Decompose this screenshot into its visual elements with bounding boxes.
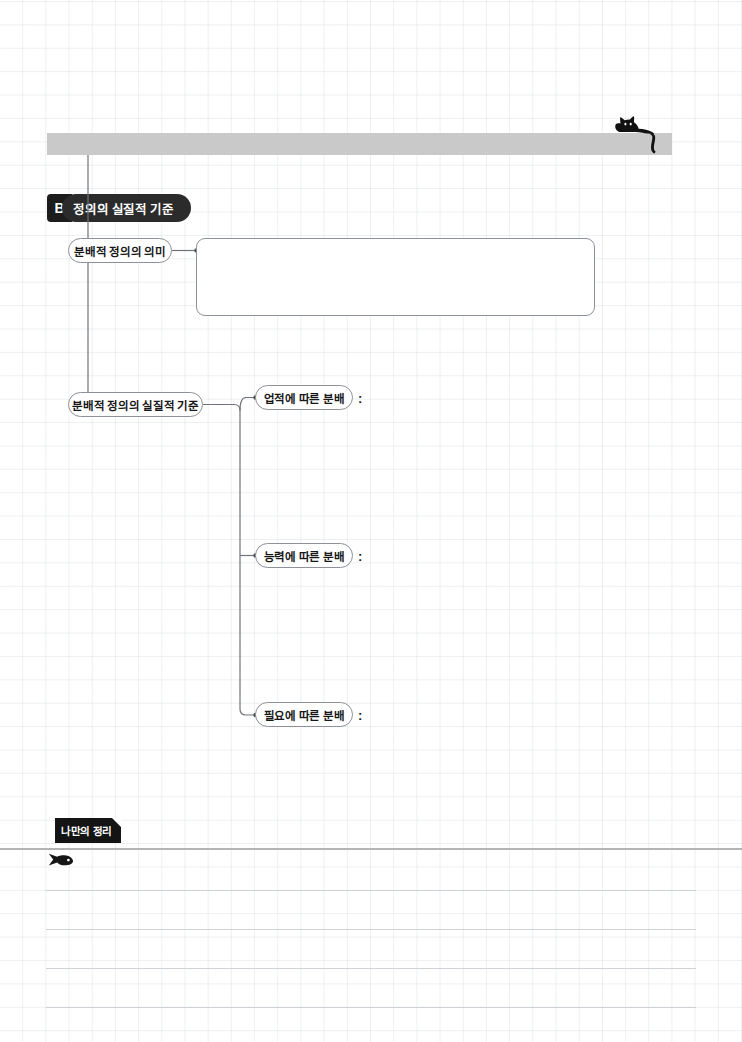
node-ability[interactable]: 능력에 따른 분배 [255,543,353,568]
memo-tag: 나만의 정리 [55,818,121,843]
memo-line-1[interactable] [46,890,696,891]
memo-line-4[interactable] [46,1007,696,1008]
memo-line-3[interactable] [46,968,696,969]
node-criteria[interactable]: 분배적 정의의 실질적 기준 [68,392,203,417]
worksheet-page: B 정의의 실질적 기준 분배적 정의의 의미 분배적 정의의 실질적 기준 업… [0,0,742,1042]
section-heading: B 정의의 실질적 기준 [47,194,191,222]
connector-lines [0,0,742,1042]
memo-tag-fold-icon [112,818,121,827]
node-merit[interactable]: 업적에 따른 분배 [255,385,353,410]
memo-tag-label: 나만의 정리 [61,823,112,838]
colon-ability: : [358,550,362,563]
fish-icon [44,845,78,873]
colon-need: : [358,709,362,722]
colon-merit: : [358,392,362,405]
memo-divider [0,848,742,850]
node-meaning[interactable]: 분배적 정의의 의미 [68,238,172,263]
black-cat-icon [608,106,664,156]
memo-line-2[interactable] [46,929,696,930]
node-need[interactable]: 필요에 따른 분배 [255,702,353,727]
section-title: 정의의 실질적 기준 [62,194,191,222]
answer-box[interactable] [196,238,595,316]
header-band [47,133,672,155]
